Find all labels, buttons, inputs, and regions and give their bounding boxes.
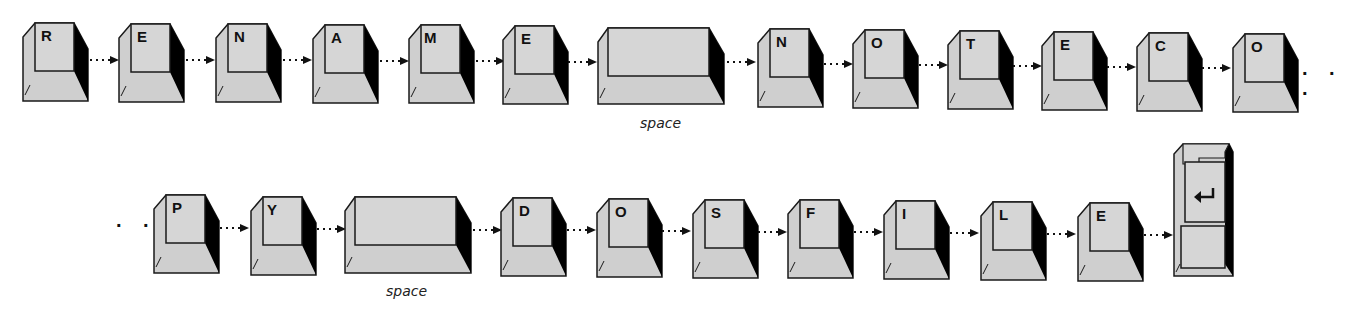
arrow-icon bbox=[950, 228, 980, 238]
key-label: D bbox=[519, 203, 530, 218]
key-label: F bbox=[806, 205, 815, 220]
arrow-icon bbox=[758, 227, 788, 237]
arrow-icon bbox=[473, 225, 503, 235]
key-i: I bbox=[883, 201, 951, 281]
arrow-icon bbox=[854, 227, 884, 237]
key-o: O bbox=[596, 199, 664, 279]
arrow-icon bbox=[1144, 230, 1174, 240]
key-e: E bbox=[1077, 203, 1145, 283]
arrow-icon bbox=[662, 226, 692, 236]
arrow-icon bbox=[220, 223, 250, 233]
key-p: P bbox=[153, 195, 221, 275]
key-d: D bbox=[500, 198, 568, 278]
key-space bbox=[344, 197, 474, 277]
key-label: I bbox=[902, 206, 906, 221]
key-s: S bbox=[692, 200, 760, 280]
key-label: O bbox=[615, 204, 627, 219]
key-f: F bbox=[787, 200, 855, 280]
enter-arrow-icon bbox=[1193, 186, 1217, 204]
key-enter bbox=[1173, 144, 1235, 280]
key-label: Y bbox=[267, 202, 277, 217]
arrow-icon bbox=[317, 224, 347, 234]
key-label: S bbox=[711, 205, 721, 220]
arrow-icon bbox=[1047, 229, 1077, 239]
key-y: Y bbox=[250, 197, 318, 277]
space-caption: space bbox=[386, 283, 427, 299]
keystroke-row-2: . . . P Y space D O S F I L bbox=[0, 0, 1352, 130]
arrow-icon bbox=[567, 225, 597, 235]
key-label: P bbox=[172, 200, 182, 215]
key-label: E bbox=[1096, 208, 1106, 223]
key-l: L bbox=[980, 202, 1048, 282]
key-label: L bbox=[999, 207, 1008, 222]
